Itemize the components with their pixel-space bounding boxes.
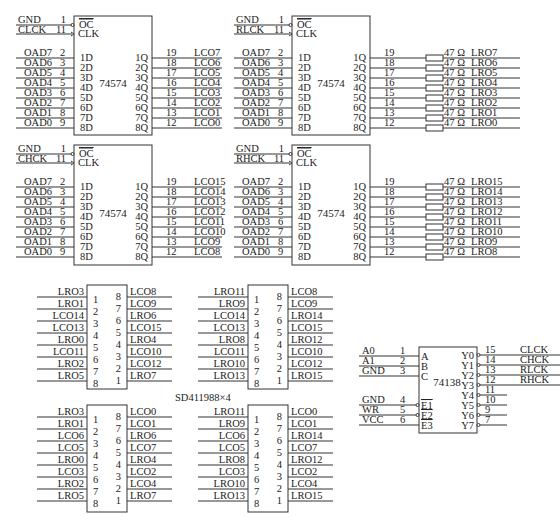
- display-left-net: LRO13: [214, 490, 246, 501]
- decoder-output-pin: 7: [485, 414, 490, 425]
- display-left-net: LRO9: [219, 298, 245, 309]
- decoder-input-pin: 3: [400, 365, 405, 376]
- display-right-pin: 2: [277, 483, 282, 494]
- display-right-net: LRO14: [291, 310, 323, 321]
- display-right-pin: 8: [277, 411, 282, 422]
- display-right-pin: 7: [116, 423, 121, 434]
- inversion-bubble: [289, 153, 292, 156]
- display-right-pin: 2: [116, 363, 121, 374]
- output-pin-number: 12: [166, 246, 177, 257]
- display-right-pin: 1: [116, 375, 121, 386]
- inversion-bubble: [477, 364, 480, 367]
- display-left-net: LCO14: [53, 310, 85, 321]
- display-right-net: LCO15: [130, 322, 162, 333]
- clk-pin-name: CLK: [78, 28, 99, 39]
- output-pin-name: 8Q: [135, 251, 148, 262]
- display-right-pin: 5: [116, 327, 121, 338]
- resistor: [426, 85, 443, 91]
- inversion-bubble: [71, 153, 74, 156]
- resistor: [426, 95, 443, 101]
- clk-pin-number: 11: [274, 153, 284, 164]
- display-left-net: LRO10: [214, 478, 246, 489]
- display-left-pin: 5: [254, 462, 259, 473]
- clk-net-label: CLCK: [18, 24, 46, 35]
- display-right-net: LRO4: [130, 454, 157, 465]
- display-left-pin: 1: [254, 414, 259, 425]
- display-right-net: LRO12: [291, 334, 323, 345]
- display-right-net: LCO10: [291, 346, 323, 357]
- display-left-pin: 4: [254, 450, 260, 461]
- display-left-pin: 3: [93, 438, 98, 449]
- resistor: [426, 234, 443, 240]
- resistor: [426, 244, 443, 250]
- display-right-net: LCO8: [291, 286, 317, 297]
- clk-pin-name: CLK: [296, 157, 317, 168]
- clk-net-label: RLCK: [236, 24, 264, 35]
- display-right-net: LRO14: [291, 430, 323, 441]
- resistor: [426, 75, 443, 81]
- display-left-pin: 2: [254, 306, 259, 317]
- display-right-pin: 7: [116, 303, 121, 314]
- input-net-label: OAD0: [242, 117, 270, 128]
- part-name: 74574: [317, 207, 345, 219]
- display-left-net: LRO8: [219, 334, 245, 345]
- inversion-bubble: [416, 414, 419, 417]
- display-right-pin: 3: [116, 351, 121, 362]
- output-pin-number: 12: [384, 117, 395, 128]
- display-0: LRO31LRO12LCO143LCO134LRO05LCO116LRO27LR…: [37, 285, 172, 389]
- display-left-pin: 6: [93, 354, 98, 365]
- display-left-pin: 7: [93, 366, 98, 377]
- display-right-pin: 5: [116, 447, 121, 458]
- display-left-pin: 6: [254, 354, 259, 365]
- display-left-pin: 3: [254, 318, 259, 329]
- display-left-net: LRO5: [58, 370, 84, 381]
- display-right-net: LRO15: [291, 370, 323, 381]
- resistor-value: 47 Ω: [444, 246, 465, 257]
- display-3: LRO111LRO92LCO63LCO54LRO85LCO36LRO107LRO…: [198, 405, 333, 512]
- resistor: [426, 115, 443, 121]
- decoder-input-net: VCC: [362, 414, 384, 425]
- clk-pin-name: CLK: [78, 157, 99, 168]
- display-right-net: LCO2: [291, 466, 317, 477]
- decoder-74138: 74138A01AA12BGND3CGND4E1WR5E2VCC6E3Y015C…: [359, 344, 560, 433]
- clk-pin-number: 11: [56, 24, 66, 35]
- display-left-net: LRO13: [214, 370, 246, 381]
- display-left-pin: 3: [93, 318, 98, 329]
- display-right-pin: 4: [116, 339, 122, 350]
- display-left-net: LCO6: [219, 430, 245, 441]
- display-right-pin: 8: [116, 411, 121, 422]
- input-pin-number: 9: [278, 246, 283, 257]
- display-right-pin: 4: [116, 459, 122, 470]
- resistor: [426, 214, 443, 220]
- display-right-net: LCO9: [130, 298, 156, 309]
- display-left-pin: 3: [254, 438, 259, 449]
- display-left-net: LRO0: [58, 454, 84, 465]
- output-net-label: LRO0: [471, 117, 497, 128]
- input-pin-name: 8D: [298, 251, 311, 262]
- display-left-pin: 1: [93, 414, 98, 425]
- part-name: 74574: [99, 207, 127, 219]
- clk-net-label: RHCK: [236, 153, 266, 164]
- display-2: LRO31LRO12LCO63LCO54LRO05LCO36LRO27LRO58…: [37, 405, 172, 512]
- output-net-label: LCO8: [194, 246, 220, 257]
- display-left-net: LRO3: [58, 286, 84, 297]
- latch-2: GND1CHCK11OCCLK74574OAD721DOAD632DOAD543…: [16, 143, 226, 265]
- inversion-bubble: [477, 404, 480, 407]
- display-left-pin: 4: [93, 450, 99, 461]
- display-left-net: LCO5: [58, 442, 84, 453]
- display-left-pin: 8: [254, 378, 259, 389]
- display-right-net: LCO7: [130, 442, 156, 453]
- display-left-pin: 7: [93, 486, 98, 497]
- display-left-pin: 5: [93, 462, 98, 473]
- display-left-net: LCO13: [53, 322, 85, 333]
- display-right-net: LRO6: [130, 310, 156, 321]
- display-left-net: LRO0: [58, 334, 84, 345]
- display-right-pin: 7: [277, 423, 282, 434]
- display-left-pin: 6: [254, 474, 259, 485]
- inversion-bubble: [477, 414, 480, 417]
- display-left-pin: 8: [93, 498, 98, 509]
- part-name: 74138: [433, 376, 461, 388]
- display-right-pin: 5: [277, 447, 282, 458]
- display-right-net: LCO12: [291, 358, 323, 369]
- input-pin-name: 8D: [298, 122, 311, 133]
